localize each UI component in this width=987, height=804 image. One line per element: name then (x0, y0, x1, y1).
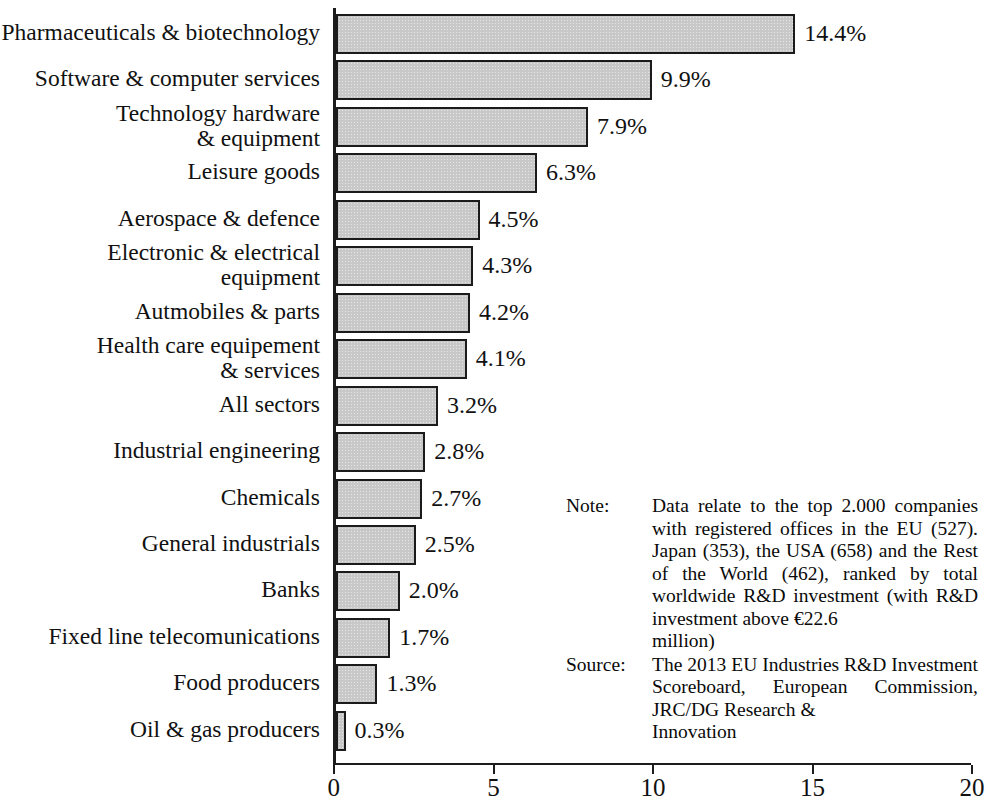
bar (336, 386, 438, 426)
x-axis-tick (493, 765, 495, 774)
category-label: Fixed line telecomunications (0, 624, 320, 649)
category-label: Electronic & electrical equipment (0, 240, 320, 290)
x-axis-tick (971, 765, 973, 774)
bar-row: Aerospace & defence4.5% (0, 200, 987, 240)
bar-row: Software & computer services9.9% (0, 60, 987, 100)
category-label: Industrial engineering (0, 438, 320, 463)
x-axis-tick (652, 765, 654, 774)
bar-value-label: 4.2% (479, 299, 529, 325)
bar-value-label: 4.5% (489, 206, 539, 232)
bar-value-label: 4.3% (482, 252, 532, 278)
bar (336, 479, 422, 519)
notes-block: Note:Data relate to the top 2.000 compan… (566, 495, 978, 744)
category-label: Technology hardware & equipment (0, 101, 320, 151)
bar (336, 664, 377, 704)
bar-row: Pharmaceuticals & biotechnology14.4% (0, 14, 987, 54)
note-label: Source: (566, 654, 652, 677)
bar (336, 246, 473, 286)
bar-row: All sectors3.2% (0, 386, 987, 426)
bar (336, 525, 416, 565)
category-label: General industrials (0, 531, 320, 556)
bar-row: Health care equipement & services4.1% (0, 339, 987, 379)
note-text: The 2013 EU Industries R&D Investment Sc… (652, 654, 978, 744)
category-label: Banks (0, 577, 320, 602)
bar (336, 107, 588, 147)
category-label: Autmobiles & parts (0, 299, 320, 324)
bar (336, 293, 470, 333)
chart-page: 05101520 Pharmaceuticals & biotechnology… (0, 0, 987, 804)
category-label: Food producers (0, 670, 320, 695)
x-axis-tick-label: 15 (800, 774, 825, 802)
bar-value-label: 2.8% (434, 438, 484, 464)
x-axis-tick-label: 0 (328, 774, 341, 802)
x-axis-tick (333, 765, 335, 774)
note-text-last-line: Innovation (652, 721, 978, 744)
bar (336, 339, 467, 379)
bar-value-label: 2.0% (409, 577, 459, 603)
category-label: All sectors (0, 392, 320, 417)
note-entry: Note:Data relate to the top 2.000 compan… (566, 495, 978, 653)
bar-row: Technology hardware & equipment7.9% (0, 107, 987, 147)
x-axis-tick-label: 5 (487, 774, 500, 802)
bar-row: Industrial engineering2.8% (0, 432, 987, 472)
note-entry: Source:The 2013 EU Industries R&D Invest… (566, 654, 978, 744)
bar-row: Autmobiles & parts4.2% (0, 293, 987, 333)
category-label: Health care equipement & services (0, 333, 320, 383)
bar-value-label: 2.5% (425, 531, 475, 557)
bar-value-label: 1.7% (399, 624, 449, 650)
bar (336, 618, 390, 658)
category-label: Leisure goods (0, 159, 320, 184)
bar-value-label: 0.3% (355, 717, 405, 743)
bar-value-label: 1.3% (386, 670, 436, 696)
bar-value-label: 6.3% (546, 159, 596, 185)
note-text: Data relate to the top 2.000 companies w… (652, 495, 978, 653)
category-label: Aerospace & defence (0, 206, 320, 231)
bar (336, 432, 425, 472)
bar-row: Leisure goods6.3% (0, 153, 987, 193)
bar (336, 153, 537, 193)
note-text-last-line: million) (652, 630, 978, 653)
bar-value-label: 4.1% (476, 345, 526, 371)
x-axis-tick-label: 20 (960, 774, 985, 802)
bar-value-label: 14.4% (804, 20, 866, 46)
bar (336, 571, 400, 611)
bar-value-label: 9.9% (661, 66, 711, 92)
bar-value-label: 7.9% (597, 113, 647, 139)
category-label: Oil & gas producers (0, 717, 320, 742)
category-label: Software & computer services (0, 66, 320, 91)
x-axis-tick-label: 10 (641, 774, 666, 802)
category-label: Pharmaceuticals & biotechnology (0, 20, 320, 45)
bar (336, 14, 795, 54)
bar-value-label: 2.7% (431, 485, 481, 511)
bar-value-label: 3.2% (447, 392, 497, 418)
note-label: Note: (566, 495, 652, 518)
bar (336, 711, 346, 751)
category-label: Chemicals (0, 485, 320, 510)
x-axis-tick (812, 765, 814, 774)
bar (336, 60, 652, 100)
bar-row: Electronic & electrical equipment4.3% (0, 246, 987, 286)
bar (336, 200, 480, 240)
